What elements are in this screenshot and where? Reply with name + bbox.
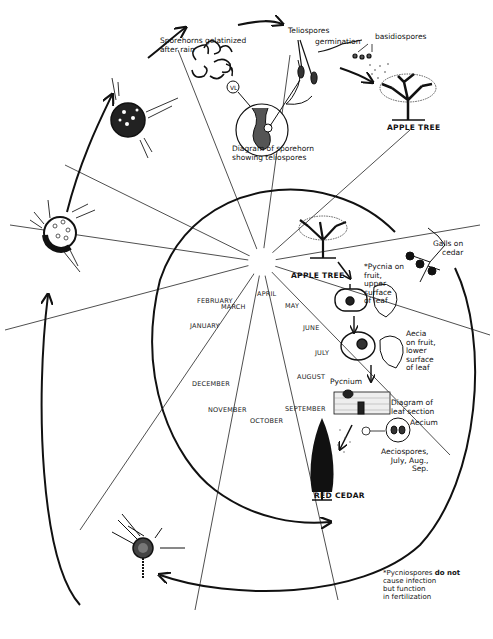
label-aecia: Aecia on fruit, lower surface of leaf: [406, 330, 436, 373]
teliospore-germination-illustration: [286, 40, 372, 104]
month-march: MARCH: [221, 303, 246, 311]
label-red-cedar: RED CEDAR: [314, 492, 365, 501]
footnote-line2: cause infection: [383, 577, 460, 585]
month-november: NOVEMBER: [208, 406, 247, 414]
month-april: APRIL: [257, 290, 276, 298]
month-december: DECEMBER: [192, 380, 230, 388]
life-cycle-diagram: VL: [0, 0, 493, 639]
apple-tree-inner-illustration: [299, 216, 350, 278]
gall-forming-illustration: [112, 514, 185, 578]
inner-cycle-oval: [152, 190, 475, 591]
basidiospore-dots: [369, 63, 389, 79]
label-galls-on-cedar: Galls on cedar: [433, 240, 463, 257]
footnote-line4: in fertilization: [383, 593, 460, 601]
footnote: *Pycniospores do not cause infection but…: [383, 569, 460, 601]
hub: [248, 248, 276, 276]
month-june: JUNE: [303, 324, 319, 332]
month-may: MAY: [285, 302, 299, 310]
month-august: AUGUST: [297, 373, 325, 381]
label-pycnia: *Pycnia on fruit, upper surface of leaf: [364, 263, 404, 306]
footnote-emphasis: do not: [435, 569, 460, 577]
label-basidiospores: basidiospores: [375, 33, 426, 42]
label-leaf-section: Diagram of leaf section: [391, 399, 434, 416]
label-sporehorn-diagram: Diagram of sporehorn showing teliospores: [232, 145, 314, 162]
label-apple-tree-inner: APPLE TREE: [291, 272, 344, 281]
month-january: JANUARY: [190, 322, 220, 330]
label-sporehorns: Sporehorns gelatinized after rain: [160, 37, 246, 54]
label-pycnium: Pycnium: [330, 378, 362, 387]
label-apple-tree-top: APPLE TREE: [387, 124, 440, 133]
label-teliospores: Teliospores: [288, 27, 329, 36]
svg-text:VL: VL: [230, 84, 238, 91]
month-july: JULY: [315, 349, 329, 357]
label-aeciospores: Aeciospores, July, Aug., Sep.: [381, 448, 429, 474]
apple-tree-top-illustration: [380, 74, 436, 120]
aecia-fruit-leaf-illustration: [341, 332, 403, 381]
month-september: SEPTEMBER: [285, 405, 326, 413]
month-october: OCTOBER: [250, 417, 283, 425]
footnote-line1: *Pycniospores: [383, 569, 435, 577]
red-cedar-illustration: [310, 418, 350, 500]
label-germination: germination: [315, 38, 360, 47]
outer-cycle-arcs: [42, 21, 372, 605]
gall-spring-illustration: [111, 78, 178, 158]
footnote-line3: but function: [383, 585, 460, 593]
label-aecium: Aecium: [410, 419, 438, 428]
